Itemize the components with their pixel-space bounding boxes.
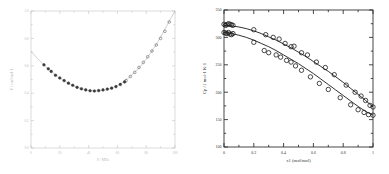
- data-point: [67, 82, 70, 85]
- data-point: [89, 89, 92, 92]
- left-plot-svg: 0204060801000.00.20.40.60.81.0P / MPaV /…: [0, 0, 195, 174]
- data-point: [97, 89, 100, 92]
- data-point: [274, 53, 278, 57]
- y-tick-label: 150: [215, 117, 221, 122]
- data-point: [84, 89, 87, 92]
- data-point: [93, 90, 96, 93]
- right-plot-svg: 00.20.40.60.81100150200250300350x1 (mol/…: [195, 0, 389, 174]
- data-point: [76, 86, 79, 89]
- data-point: [119, 83, 122, 86]
- y-tick-label: 350: [215, 7, 221, 12]
- data-point: [262, 48, 266, 52]
- y-tick-label: 0.8: [25, 37, 30, 41]
- data-point: [267, 51, 271, 55]
- data-point: [50, 70, 53, 73]
- x-tick-label: 0.2: [251, 150, 256, 155]
- data-point: [292, 44, 296, 48]
- data-point: [110, 87, 113, 90]
- data-point: [106, 88, 109, 91]
- plot-frame: [31, 11, 175, 148]
- data-point: [308, 75, 312, 79]
- data-point: [284, 58, 288, 62]
- y-tick-label: 100: [215, 144, 221, 149]
- data-point: [326, 87, 330, 91]
- data-point: [43, 63, 46, 66]
- data-point: [293, 64, 297, 68]
- data-point: [54, 74, 57, 77]
- x-tick-label: 80: [145, 151, 149, 155]
- x-tick-label: 0.4: [281, 150, 286, 155]
- x-tick-label: 0: [30, 151, 32, 155]
- data-point: [317, 81, 321, 85]
- x-tick-label: 0.8: [341, 150, 346, 155]
- y-tick-label: 0.2: [25, 119, 30, 123]
- y-axis-title: V / cm3 mol-1: [10, 68, 14, 90]
- x-axis-title: x1 (mol/mol): [286, 158, 311, 163]
- data-point: [338, 95, 342, 99]
- plot-frame: [224, 10, 373, 147]
- x-tick-label: 20: [58, 151, 62, 155]
- y-tick-label: 200: [215, 90, 221, 95]
- x-tick-label: 100: [172, 151, 177, 155]
- x-tick-label: 1: [372, 150, 374, 155]
- data-point: [348, 103, 352, 107]
- y-tick-label: 1.0: [25, 9, 30, 13]
- y-tick-label: 300: [215, 35, 221, 40]
- data-point: [115, 85, 118, 88]
- data-point: [47, 67, 50, 70]
- data-point: [362, 110, 366, 114]
- data-point: [299, 68, 303, 72]
- data-point: [252, 40, 256, 44]
- chart-panel-right: 00.20.40.60.81100150200250300350x1 (mol/…: [195, 0, 389, 174]
- data-point: [80, 87, 83, 90]
- data-point: [63, 79, 66, 82]
- two-panel-figure: 0204060801000.00.20.40.60.81.0P / MPaV /…: [0, 0, 389, 174]
- y-tick-label: 0.0: [25, 146, 30, 150]
- data-point: [278, 55, 282, 59]
- data-point: [289, 60, 293, 64]
- data-point: [58, 77, 61, 80]
- data-point: [305, 53, 309, 57]
- x-tick-label: 0.6: [311, 150, 316, 155]
- x-tick-label: 0: [223, 150, 225, 155]
- y-tick-label: 250: [215, 62, 221, 67]
- x-axis-title: P / MPa: [97, 158, 109, 162]
- data-point: [356, 108, 360, 112]
- data-point: [71, 84, 74, 87]
- data-point: [102, 89, 105, 92]
- x-tick-label: 60: [116, 151, 120, 155]
- x-tick-label: 40: [87, 151, 91, 155]
- chart-panel-left: 0204060801000.00.20.40.60.81.0P / MPaV /…: [0, 0, 195, 174]
- data-point: [277, 37, 281, 41]
- y-axis-title: Cp / J mol-1 K-1: [202, 62, 207, 94]
- y-tick-label: 0.4: [25, 91, 30, 95]
- y-tick-label: 0.6: [25, 64, 30, 68]
